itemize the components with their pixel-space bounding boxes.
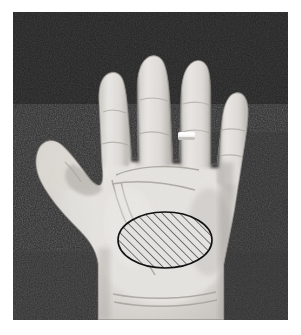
hand-label: left hand, palm up [0, 0, 1, 1]
figure-root: left hand, palm up hatched ellipse regio… [0, 0, 301, 335]
photo-canvas [13, 12, 288, 320]
hatched-ellipse-annotation [118, 212, 212, 268]
ring-icon [178, 132, 195, 140]
annotation-label: hatched ellipse region marked on palm [0, 0, 1, 1]
figure-caption [0, 0, 1, 1]
hand-photograph [13, 12, 288, 320]
ring-label: ring [0, 0, 1, 1]
background-label: dark textured cloth backdrop [0, 0, 1, 1]
